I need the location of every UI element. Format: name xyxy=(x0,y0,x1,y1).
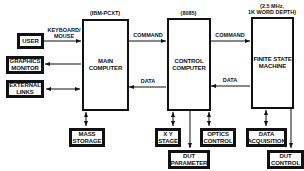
external-links-label: EXTERNAL LINKS xyxy=(9,82,41,96)
data-label-right: DATA xyxy=(212,77,248,83)
command-label-left: COMMAND xyxy=(128,32,168,38)
optics-control-label: OPTICS CONTROL xyxy=(204,131,233,145)
optics-control-box: OPTICS CONTROL xyxy=(200,128,236,147)
command-label-right: COMMAND xyxy=(210,32,250,38)
control-computer-label: CONTROL COMPUTER xyxy=(172,58,206,72)
fsm-spec-caption: (2.5 MHz, 1K WORD DEPTH) xyxy=(242,3,302,15)
data-label-left: DATA xyxy=(130,78,166,84)
mass-storage-label: MASS STORAGE xyxy=(73,131,102,145)
keyboard-mouse-label: KEYBOARD/ MOUSE xyxy=(44,27,84,39)
dut-control-label: DUT CONTROL xyxy=(271,153,300,167)
finite-state-machine-box: FINITE STATE MACHINE xyxy=(251,17,294,109)
data-acquisition-label: DATA ACQUISITION xyxy=(247,131,285,145)
main-computer-model-caption: (IBM-PCXT) xyxy=(82,10,128,16)
finite-state-machine-label: FINITE STATE MACHINE xyxy=(253,56,291,70)
user-box: USER xyxy=(17,33,44,49)
control-computer-box: CONTROL COMPUTER xyxy=(167,18,211,111)
xy-stage-box: X Y STAGE xyxy=(155,128,181,147)
external-links-box: EXTERNAL LINKS xyxy=(6,80,44,98)
dut-parameter-box: DUT PARAMETER xyxy=(168,150,210,169)
graphics-monitor-box: GRAPHICS MONITOR xyxy=(6,56,44,74)
xy-stage-label: X Y STAGE xyxy=(158,131,178,145)
dut-parameter-label: DUT PARAMETER xyxy=(171,153,208,167)
dut-control-box: DUT CONTROL xyxy=(267,150,304,169)
main-computer-box: MAIN COMPUTER xyxy=(82,19,129,111)
user-label: USER xyxy=(22,38,38,45)
control-computer-model-caption: (8085) xyxy=(167,10,210,16)
main-computer-label: MAIN COMPUTER xyxy=(89,58,123,72)
data-acquisition-box: DATA ACQUISITION xyxy=(246,128,287,147)
graphics-monitor-label: GRAPHICS MONITOR xyxy=(10,58,41,72)
mass-storage-box: MASS STORAGE xyxy=(69,128,105,147)
